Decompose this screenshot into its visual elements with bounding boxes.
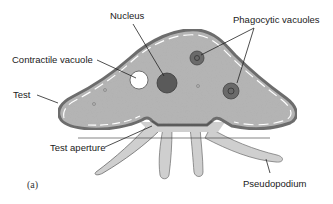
phagocytic-vacuole-1 (190, 51, 204, 65)
phagocytic-vacuole-2 (223, 83, 239, 99)
nucleus (157, 73, 177, 93)
contractile-vacuole (130, 71, 148, 89)
test-outline (59, 30, 297, 129)
pseudopodium-center-left (159, 128, 172, 179)
pseudopodium-center-right (190, 128, 203, 177)
pseudopodia (95, 122, 282, 179)
pseudopodium-right (205, 128, 283, 162)
label-pseudopodium: Pseudopodium (243, 179, 306, 189)
amoeba-illustration (0, 0, 333, 204)
amoeba-diagram: Nucleus Phagocytic vacuoles Contractile … (0, 0, 333, 204)
label-test-aperture: Test aperture (50, 143, 105, 153)
cell-body (59, 30, 297, 129)
panel-label: (a) (27, 180, 38, 190)
label-nucleus: Nucleus (110, 11, 144, 21)
leader-test (37, 95, 58, 103)
label-phagocytic-vacuoles: Phagocytic vacuoles (233, 15, 320, 25)
label-contractile-vacuole: Contractile vacuole (12, 55, 93, 65)
label-test: Test (13, 90, 30, 100)
